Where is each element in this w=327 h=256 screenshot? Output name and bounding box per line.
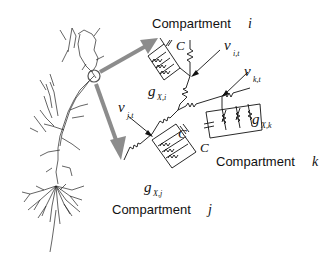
label-compartment-j: Compartment j <box>112 202 212 217</box>
arrow-to-compartment-j <box>96 84 126 160</box>
conductance-i-label: g X,i <box>148 83 166 102</box>
voltage-i-subscript: i,t <box>233 49 240 58</box>
compartment-k-label: Compartment <box>216 154 295 169</box>
voltage-j-subscript: j,t <box>126 111 134 120</box>
neuron-morphology <box>22 28 104 252</box>
compartment-k-index: k <box>312 154 319 169</box>
label-compartment-i: Compartment i <box>152 16 252 31</box>
compartment-j-label: Compartment <box>112 202 191 217</box>
conductance-i-symbol: g <box>148 83 156 99</box>
voltage-i-symbol: v <box>224 37 231 53</box>
voltage-j-label: v j,t <box>118 99 134 120</box>
diagram-canvas: Compartment i Compartment k Compartment … <box>0 0 327 256</box>
capacitance-i-label: C <box>176 38 185 53</box>
label-compartment-k: Compartment k <box>216 154 319 169</box>
arrow-v-i <box>191 50 220 77</box>
compartment-j-index: j <box>206 202 212 217</box>
voltage-k-label: v k,t <box>244 63 262 84</box>
conductance-i-subscript: X,i <box>156 93 166 102</box>
voltage-k-subscript: k,t <box>253 75 262 84</box>
compartment-i-index: i <box>248 16 252 31</box>
conductance-k-label: g X,k <box>252 111 272 130</box>
voltage-i-label: v i,t <box>224 37 240 58</box>
voltage-j-symbol: v <box>118 99 125 115</box>
circuit-compartment-i <box>148 38 193 110</box>
voltage-k-symbol: v <box>244 63 251 79</box>
capacitance-j-label: C <box>178 126 187 141</box>
conductance-j-subscript: X,j <box>152 189 163 198</box>
diagram: Compartment i Compartment k Compartment … <box>0 0 327 256</box>
conductance-j-symbol: g <box>144 179 152 195</box>
conductance-k-symbol: g <box>252 111 260 127</box>
capacitance-k-label: C <box>200 140 209 155</box>
conductance-j-label: g X,j <box>144 179 163 198</box>
circuit-branch-k <box>178 88 262 138</box>
compartment-i-label: Compartment <box>152 16 231 31</box>
conductance-k-subscript: X,k <box>260 121 272 130</box>
